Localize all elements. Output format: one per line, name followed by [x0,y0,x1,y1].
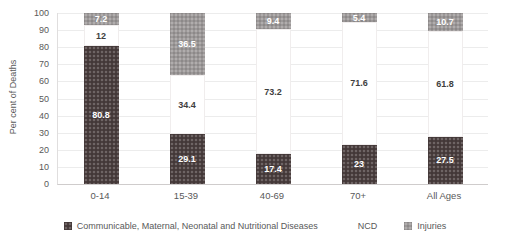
bar-value-label: 12 [85,31,118,41]
bar-value-label: 7.2 [84,14,119,24]
bar-segment-ncd: 61.8 [428,31,463,137]
y-tick-label: 100 [9,8,49,18]
x-category-label: 0-14 [57,190,143,201]
bar-value-label: 61.8 [429,79,462,89]
legend-item: NCD [345,221,378,231]
legend-marker-icon [404,222,412,230]
bar-value-label: 29.1 [170,154,205,164]
stacked-bar-chart: Per cent of Deaths 80.8127.229.134.436.5… [0,0,510,243]
bar-segment-injuries: 5.4 [342,13,377,22]
y-tick-label: 50 [9,94,49,104]
bar-segment-communicable: 29.1 [170,134,205,184]
bar-value-label: 23 [342,159,377,169]
bar-segment-communicable: 80.8 [84,46,119,184]
bar-segment-injuries: 36.5 [170,13,205,75]
bar-segment-injuries: 10.7 [428,13,463,31]
legend: Communicable, Maternal, Neonatal and Nut… [0,221,510,231]
legend-label: Injuries [417,221,446,231]
bar-value-label: 9.4 [256,16,291,26]
bar-segment-ncd: 71.6 [342,22,377,144]
y-tick-label: 30 [9,128,49,138]
bar-value-label: 36.5 [170,39,205,49]
y-tick-label: 70 [9,59,49,69]
y-tick-label: 0 [9,179,49,189]
x-category-label: All Ages [401,190,487,201]
bar-segment-communicable: 23 [342,145,377,184]
bar-value-label: 17.4 [256,164,291,174]
x-category-label: 40-69 [229,190,315,201]
y-tick-label: 60 [9,76,49,86]
y-tick-label: 40 [9,111,49,121]
bar-value-label: 73.2 [257,87,290,97]
plot-area: 80.8127.229.134.436.517.473.29.42371.65.… [57,13,488,185]
legend-label: Communicable, Maternal, Neonatal and Nut… [77,221,318,231]
bar-value-label: 80.8 [84,110,119,120]
bar-value-label: 27.5 [428,155,463,165]
bar-value-label: 5.4 [342,13,377,23]
y-tick-label: 80 [9,42,49,52]
x-category-label: 15-39 [143,190,229,201]
legend-label: NCD [358,221,378,231]
bar-segment-ncd: 73.2 [256,29,291,154]
legend-item: Injuries [404,221,446,231]
y-tick-label: 90 [9,25,49,35]
bar-segment-injuries: 7.2 [84,13,119,25]
legend-item: Communicable, Maternal, Neonatal and Nut… [64,221,318,231]
bar-segment-ncd: 12 [84,25,119,46]
x-category-label: 70+ [315,190,401,201]
bar-segment-communicable: 17.4 [256,154,291,184]
legend-marker-icon [345,222,353,230]
bar-value-label: 10.7 [428,17,463,27]
bar-segment-injuries: 9.4 [256,13,291,29]
y-tick-label: 10 [9,162,49,172]
bar-segment-ncd: 34.4 [170,75,205,134]
y-tick-label: 20 [9,145,49,155]
bar-value-label: 71.6 [343,78,376,88]
bar-value-label: 34.4 [171,100,204,110]
legend-marker-icon [64,222,72,230]
bar-segment-communicable: 27.5 [428,137,463,184]
